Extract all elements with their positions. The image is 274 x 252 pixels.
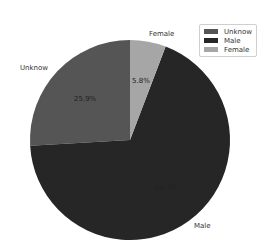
slice-label-unknow: Unknow: [20, 64, 48, 72]
slice-pct-female: 5.8%: [132, 77, 150, 85]
legend-item-female: Female: [204, 45, 252, 54]
legend-label: Female: [224, 46, 249, 54]
pie-slice-unknow: [30, 40, 130, 146]
slice-pct-unknow: 25.9%: [74, 95, 97, 103]
legend-label: Male: [224, 37, 241, 45]
legend: Unknow Male Female: [199, 24, 257, 57]
legend-swatch-unknow: [204, 29, 218, 34]
slice-label-female: Female: [149, 30, 174, 38]
slice-label-male: Male: [194, 222, 211, 230]
legend-item-male: Male: [204, 36, 252, 45]
legend-item-unknow: Unknow: [204, 27, 252, 36]
legend-swatch-male: [204, 38, 218, 43]
legend-swatch-female: [204, 47, 218, 52]
slice-pct-male: 68.3%: [155, 184, 178, 192]
legend-label: Unknow: [224, 28, 252, 36]
